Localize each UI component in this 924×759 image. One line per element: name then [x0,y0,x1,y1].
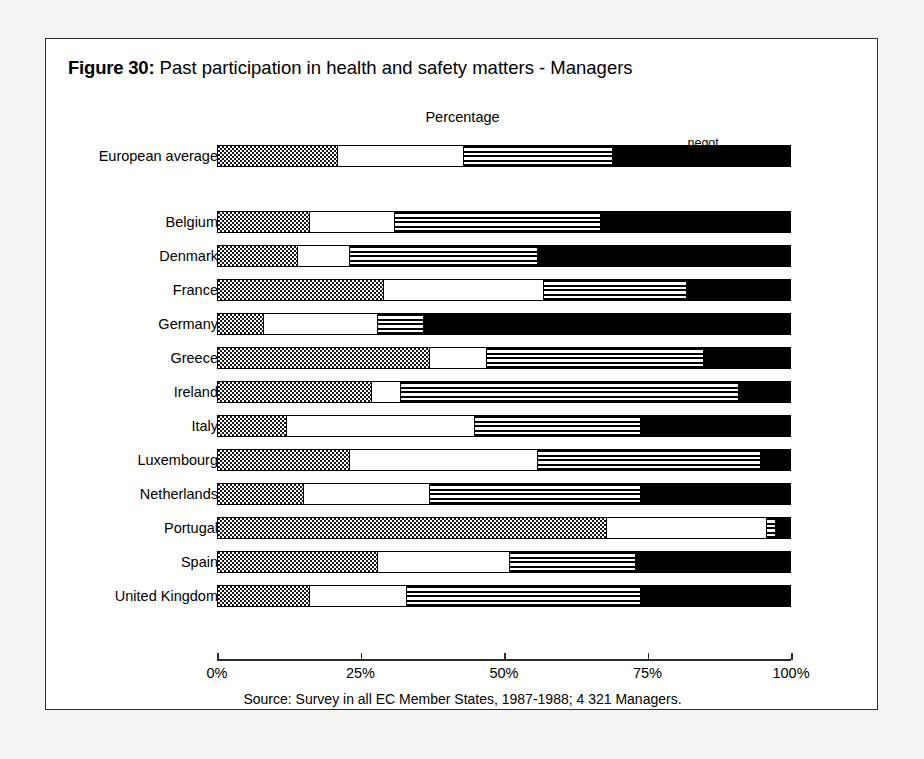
row-label-luxembourg: Luxembourg [0,449,218,471]
chart-row: Portugal [46,517,879,539]
bar-segment-consultation [767,518,776,538]
axis-tick [217,653,219,660]
bar-segment-negot-joint-decision [424,314,790,334]
figure-frame: Figure 30: Past participation in health … [45,38,878,710]
bar-segment-consultation [464,146,613,166]
bar-segment-negot-joint-decision [641,416,790,436]
bar-segment-information [304,484,430,504]
bar-segment-negot-joint-decision [613,146,790,166]
bar-segment-information [378,552,510,572]
stacked-bar [217,381,791,403]
bar-segment-negot-joint-decision [641,484,790,504]
stacked-bar [217,145,791,167]
row-label-france: France [0,279,218,301]
chart-row: Belgium [46,211,879,233]
bar-segment-consultation [487,348,704,368]
axis-tick-label: 75% [633,665,662,681]
stacked-bar [217,245,791,267]
bar-segment-consultation [407,586,642,606]
chart-row: Greece [46,347,879,369]
bar-segment-consultation [510,552,636,572]
stacked-bar [217,585,791,607]
bar-segment-information [338,146,464,166]
bar-segment-information [298,246,349,266]
axis-tick [504,653,506,660]
stacked-bar [217,449,791,471]
row-label-germany: Germany [0,313,218,335]
page-background: Figure 30: Past participation in health … [0,0,924,759]
bar-segment-no-involvement [218,314,264,334]
chart-row: European average [46,145,879,167]
bar-segment-information [372,382,401,402]
bar-segment-no-involvement [218,280,384,300]
bar-segment-consultation [395,212,601,232]
bar-segment-information [310,212,396,232]
stacked-bar [217,313,791,335]
row-label-spain: Spain [0,551,218,573]
chart-row: Denmark [46,245,879,267]
bar-segment-information [264,314,378,334]
bar-segment-information [310,586,407,606]
bar-segment-negot-joint-decision [739,382,790,402]
axis-tick [648,653,650,660]
bar-segment-consultation [378,314,424,334]
axis-tick [791,653,793,660]
chart-row: France [46,279,879,301]
chart-row: Ireland [46,381,879,403]
row-label-greece: Greece [0,347,218,369]
stacked-bar [217,347,791,369]
axis-tick [361,653,363,660]
bar-segment-no-involvement [218,586,310,606]
chart-row: Spain [46,551,879,573]
bar-segment-negot-joint-decision [687,280,790,300]
bar-segment-no-involvement [218,484,304,504]
bar-segment-no-involvement [218,450,350,470]
bar-segment-no-involvement [218,246,298,266]
bar-segment-information [430,348,487,368]
chart-row: United Kingdom [46,585,879,607]
row-label-european-average: European average [0,145,218,167]
bar-segment-consultation [430,484,642,504]
bar-segment-negot-joint-decision [704,348,790,368]
bar-segment-negot-joint-decision [636,552,790,572]
bar-segment-negot-joint-decision [538,246,790,266]
axis-tick-label: 0% [207,665,228,681]
row-label-denmark: Denmark [0,245,218,267]
stacked-bar [217,517,791,539]
source-note: Source: Survey in all EC Member States, … [46,691,879,707]
bar-segment-no-involvement [218,382,372,402]
axis-tick-label: 100% [772,665,809,681]
bar-segment-no-involvement [218,212,310,232]
bar-segment-consultation [544,280,687,300]
bar-segment-no-involvement [218,348,430,368]
stacked-bar [217,415,791,437]
axis-tick-label: 50% [489,665,518,681]
row-label-portugal: Portugal [0,517,218,539]
bar-segment-negot-joint-decision [776,518,790,538]
stacked-bar [217,211,791,233]
row-label-united-kingdom: United Kingdom [0,585,218,607]
bar-segment-negot-joint-decision [761,450,790,470]
bar-segment-information [384,280,544,300]
bar-segment-information [350,450,539,470]
bar-segment-information [287,416,476,436]
bar-segment-no-involvement [218,518,607,538]
row-label-netherlands: Netherlands [0,483,218,505]
bar-segment-negot-joint-decision [601,212,790,232]
row-label-italy: Italy [0,415,218,437]
bar-segment-negot-joint-decision [641,586,790,606]
chart-row: Netherlands [46,483,879,505]
bar-segment-no-involvement [218,416,287,436]
bar-segment-consultation [401,382,738,402]
bar-segment-consultation [538,450,761,470]
bar-segment-information [607,518,767,538]
row-label-belgium: Belgium [0,211,218,233]
chart-row: Germany [46,313,879,335]
stacked-bar [217,483,791,505]
stacked-bar [217,551,791,573]
chart-plot-area: no involvementinformationconsultationneg… [46,39,879,711]
bar-segment-consultation [475,416,641,436]
bar-segment-no-involvement [218,146,338,166]
stacked-bar [217,279,791,301]
bar-segment-no-involvement [218,552,378,572]
